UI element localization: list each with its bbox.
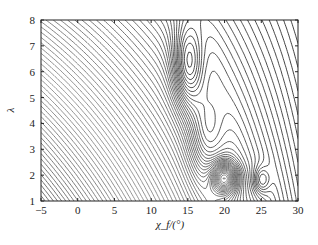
contour-chart: −5051015202530 12345678 χ_f/(°) λ	[0, 0, 318, 245]
contour-line	[41, 154, 78, 202]
y-tick-label: 1	[30, 195, 36, 207]
y-axis-label: λ	[4, 107, 16, 113]
contour-line	[284, 20, 298, 68]
y-tick-label: 2	[30, 169, 36, 181]
x-tick-label: 10	[146, 204, 158, 216]
contour-line	[41, 196, 45, 201]
contour-line	[41, 132, 95, 201]
y-tick-label: 6	[30, 66, 36, 78]
x-tick-label: 20	[219, 204, 231, 216]
x-tick-label: 5	[112, 204, 118, 216]
contour-line	[41, 80, 136, 201]
x-tick-label: 0	[75, 204, 81, 216]
x-tick-label: 15	[182, 204, 194, 216]
y-tick-label: 5	[30, 92, 36, 104]
contour-line	[41, 53, 156, 201]
contour-line	[60, 20, 232, 201]
contour-line	[132, 20, 241, 201]
contour-line	[176, 20, 266, 201]
contour-line	[41, 190, 49, 201]
contour-line	[291, 20, 298, 44]
y-tick-label: 7	[30, 40, 36, 52]
x-tick-label: 30	[293, 204, 305, 216]
y-tick-label: 4	[30, 117, 36, 129]
contour-line	[41, 175, 62, 201]
contour-line	[46, 20, 231, 201]
contour-line	[255, 20, 298, 162]
x-tick-label: 25	[256, 204, 268, 216]
contour-lines	[41, 20, 298, 201]
x-axis-label: χ_f/(°)	[155, 218, 185, 231]
y-tick-label: 3	[30, 143, 36, 155]
contour-line	[41, 180, 58, 201]
x-tick-label: −5	[35, 204, 47, 216]
contour-line	[262, 20, 298, 139]
y-tick-label: 8	[30, 14, 36, 26]
contour-line	[41, 117, 107, 201]
